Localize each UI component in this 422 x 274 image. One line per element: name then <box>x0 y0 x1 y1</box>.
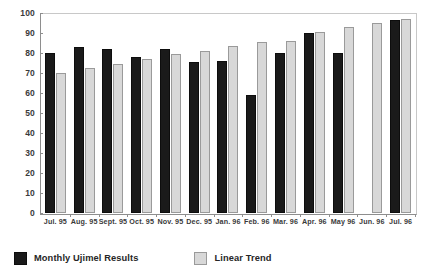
bar <box>286 41 296 213</box>
y-axis-tick-label: 60 <box>25 88 35 98</box>
bar <box>45 53 55 213</box>
x-axis-tick-mark <box>214 214 215 217</box>
y-axis-tick-label: 90 <box>25 28 35 38</box>
y-axis-tick-label: 0 <box>30 208 35 218</box>
legend-swatch-icon-dark <box>14 252 27 265</box>
x-axis-tick-mark <box>386 214 387 217</box>
x-axis-tick-mark <box>271 214 272 217</box>
legend-label-monthly-ujimel-results: Monthly Ujimel Results <box>34 253 138 263</box>
bar <box>372 23 382 213</box>
bar <box>344 27 354 213</box>
bar <box>246 95 256 213</box>
bar <box>160 49 170 213</box>
legend-entry-monthly-ujimel-results: Monthly Ujimel Results <box>14 252 138 265</box>
bar <box>275 53 285 213</box>
y-axis-tick-label: 10 <box>25 188 35 198</box>
bar <box>56 73 66 213</box>
x-axis-tick-mark <box>242 214 243 217</box>
y-axis-tick-mark <box>40 133 43 134</box>
bar-group <box>329 13 358 213</box>
bar <box>228 46 238 213</box>
bar-group <box>99 13 128 213</box>
y-axis-tick-label: 70 <box>25 68 35 78</box>
bar-group <box>357 13 386 213</box>
y-axis-tick-mark <box>40 13 43 14</box>
bar <box>113 64 123 213</box>
y-axis-tick-mark <box>40 93 43 94</box>
y-axis-tick-mark <box>40 213 43 214</box>
x-axis-tick-mark <box>357 214 358 217</box>
x-axis-tick-label: Jul. 96 <box>382 217 419 226</box>
bar <box>131 57 141 213</box>
bar <box>200 51 210 213</box>
bar <box>257 42 267 213</box>
bar <box>142 59 152 213</box>
y-axis-tick-label: 50 <box>25 108 35 118</box>
chart-legend: Monthly Ujimel Results Linear Trend <box>14 250 271 266</box>
y-axis-tick-label: 20 <box>25 168 35 178</box>
bar <box>85 68 95 213</box>
y-axis-tick-mark <box>40 33 43 34</box>
bar-group <box>41 13 70 213</box>
bar <box>315 32 325 213</box>
bar-group <box>386 13 415 213</box>
y-axis-tick-mark <box>40 153 43 154</box>
y-axis-tick-label: 30 <box>25 148 35 158</box>
bar-chart: 1009080706050403020100 Jul. 95Aug. 95Sep… <box>0 0 422 274</box>
bar <box>74 47 84 213</box>
bar <box>171 54 181 213</box>
x-axis-tick-mark <box>156 214 157 217</box>
y-axis-tick-label: 100 <box>20 8 35 18</box>
x-axis-tick-mark <box>329 214 330 217</box>
legend-label-linear-trend: Linear Trend <box>214 253 271 263</box>
bar <box>333 53 343 213</box>
y-axis-tick-mark <box>40 113 43 114</box>
bar-group <box>70 13 99 213</box>
bar-group <box>127 13 156 213</box>
bar <box>390 20 400 213</box>
x-axis-tick-mark <box>300 214 301 217</box>
y-axis: 1009080706050403020100 <box>0 0 40 226</box>
bar <box>304 33 314 213</box>
y-axis-tick-mark <box>40 193 43 194</box>
bar <box>189 62 199 213</box>
legend-entry-linear-trend: Linear Trend <box>194 252 271 265</box>
bar <box>102 49 112 213</box>
y-axis-tick-label: 80 <box>25 48 35 58</box>
bar-group <box>156 13 185 213</box>
x-axis-tick-mark <box>415 214 416 217</box>
bars-layer <box>41 13 415 213</box>
y-axis-tick-label: 40 <box>25 128 35 138</box>
legend-swatch-icon-light <box>194 252 207 265</box>
bar-group <box>300 13 329 213</box>
y-axis-tick-mark <box>40 173 43 174</box>
bar-group <box>242 13 271 213</box>
y-axis-tick-mark <box>40 53 43 54</box>
x-axis: Jul. 95Aug. 95Sept. 95Oct. 95Nov. 95Dec.… <box>41 217 415 231</box>
y-axis-tick-mark <box>40 73 43 74</box>
bar-group <box>271 13 300 213</box>
bar-group <box>214 13 243 213</box>
x-axis-tick-mark <box>185 214 186 217</box>
bar <box>217 61 227 213</box>
x-axis-tick-mark <box>70 214 71 217</box>
bar-group <box>185 13 214 213</box>
x-axis-tick-mark <box>99 214 100 217</box>
x-axis-tick-mark <box>127 214 128 217</box>
bar <box>401 19 411 213</box>
